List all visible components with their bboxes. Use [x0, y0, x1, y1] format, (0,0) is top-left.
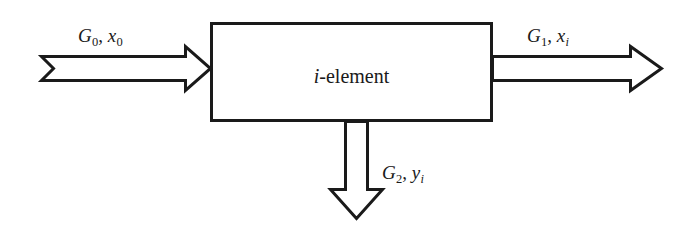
flow-label-y-subscript: i: [420, 172, 424, 186]
flow-label-x-symbol: x: [557, 25, 565, 46]
output-arrow-bottom: [331, 122, 383, 219]
flow-label-g-subscript: 1: [541, 35, 548, 49]
flow-label-output-bottom: G2, yi: [382, 163, 424, 182]
flow-label-separator: ,: [547, 25, 557, 46]
flow-label-separator: ,: [98, 25, 108, 46]
flow-label-g-symbol: G: [78, 25, 92, 46]
diagram-canvas: G0, x0 G1, xi G2, yi i-element: [0, 0, 679, 226]
flow-label-separator: ,: [402, 162, 412, 183]
output-arrow-right: [493, 47, 662, 91]
flow-label-g-symbol: G: [382, 162, 396, 183]
flow-label-output-right: G1, xi: [527, 26, 569, 45]
flow-label-g-subscript: 0: [92, 35, 99, 49]
input-arrow-left: [42, 47, 211, 91]
flow-label-input-left: G0, x0: [78, 26, 123, 45]
flow-label-x-subscript: i: [565, 35, 569, 49]
flow-label-g-subscript: 2: [396, 172, 403, 186]
flow-label-g-symbol: G: [527, 25, 541, 46]
flow-label-x-symbol: x: [108, 25, 116, 46]
flow-label-y-symbol: y: [412, 162, 420, 183]
block-label-text: -element: [319, 65, 389, 87]
flow-label-x-subscript: 0: [116, 35, 123, 49]
i-element-block-label: i-element: [210, 66, 493, 86]
